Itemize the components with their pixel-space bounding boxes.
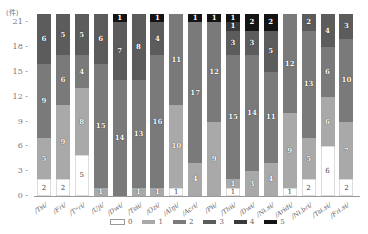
bar-segment-1: 3	[245, 171, 259, 196]
segment-value-label: 1	[97, 188, 104, 196]
bar-segment-3: 8	[132, 14, 146, 80]
segment-value-label: 1	[154, 188, 161, 196]
segment-value-label: 10	[341, 76, 353, 84]
bar-segment-3: 3	[226, 31, 240, 56]
legend-label: 1	[158, 218, 162, 226]
segment-value-label: 1	[230, 180, 237, 188]
bar-segment-1: 1	[132, 188, 146, 196]
segment-value-label: 6	[324, 68, 331, 76]
bar-segment-5: 1	[207, 14, 221, 22]
bar-segment-0: 1	[283, 188, 297, 196]
legend-item-5: 5	[264, 218, 284, 226]
bar-segment-0: 2	[302, 179, 316, 196]
bar-segment-2: 13	[132, 80, 146, 188]
bar: 4171	[187, 14, 203, 196]
segment-value-label: 2	[267, 18, 274, 26]
segment-value-label: 11	[170, 56, 182, 64]
legend-item-1: 1	[142, 218, 162, 226]
bar-segment-2: 14	[245, 55, 259, 171]
segment-value-label: 17	[189, 89, 201, 97]
segment-value-label: 4	[78, 68, 85, 76]
segment-value-label: 9	[286, 147, 293, 155]
bar: 11641	[149, 14, 165, 196]
segment-value-label: 2	[248, 18, 255, 26]
bar-segment-5: 2	[264, 14, 278, 31]
bar-segment-1: 4	[188, 163, 202, 196]
segment-value-label: 6	[324, 118, 331, 126]
bar: 9121	[206, 14, 222, 196]
bar-segment-3: 6	[94, 14, 108, 64]
segment-value-label: 5	[267, 47, 274, 55]
bar-segment-3: 5	[75, 14, 89, 55]
segment-value-label: 6	[59, 76, 66, 84]
segment-value-label: 16	[152, 118, 164, 126]
bar: 27103	[338, 14, 354, 196]
segment-value-label: 13	[133, 130, 145, 138]
segment-value-label: 2	[60, 184, 66, 192]
segment-value-label: 3	[248, 180, 255, 188]
segment-value-label: 5	[59, 31, 66, 39]
bar-segment-1: 8	[75, 88, 89, 154]
bar-segment-1: 5	[302, 138, 316, 179]
y-tick-label: 0 -	[6, 191, 28, 200]
segment-value-label: 3	[230, 39, 237, 47]
bar-segment-2: 11	[264, 72, 278, 163]
bar-segment-0: 5	[75, 155, 89, 196]
segment-value-label: 12	[284, 60, 296, 68]
bar-segment-0: 2	[339, 179, 353, 196]
segment-value-label: 2	[305, 184, 311, 192]
bar-segment-1: 7	[339, 122, 353, 180]
segment-value-label: 7	[116, 47, 123, 55]
bar-segment-3: 3	[245, 31, 259, 56]
bar-segment-1: 1	[150, 188, 164, 196]
bar-segment-2: 10	[339, 39, 353, 122]
bar-segment-4: 1	[226, 22, 240, 30]
bar: 1912	[282, 14, 298, 196]
bar: 11011	[168, 14, 184, 196]
bar-segment-2: 13	[302, 31, 316, 139]
segment-value-label: 13	[303, 80, 315, 88]
bar-segment-3: 2	[302, 14, 316, 31]
bar: 2965	[55, 14, 71, 196]
bar-segment-0: 6	[321, 146, 335, 196]
bar-segment-1: 10	[169, 105, 183, 188]
legend-label: 3	[219, 218, 223, 226]
segment-value-label: 1	[154, 14, 161, 22]
bar-segment-2: 6	[56, 55, 70, 105]
y-tick-label: 6 -	[6, 141, 28, 150]
legend-item-4: 4	[234, 218, 254, 226]
bar-segment-1: 9	[207, 122, 221, 196]
segment-value-label: 6	[324, 167, 330, 175]
x-axis-line	[34, 196, 360, 197]
segment-value-label: 9	[59, 138, 66, 146]
segment-value-label: 1	[192, 14, 199, 22]
legend-label: 2	[189, 218, 193, 226]
segment-value-label: 5	[79, 171, 85, 179]
segment-value-label: 9	[41, 97, 48, 105]
segment-value-label: 9	[211, 155, 218, 163]
segment-value-label: 2	[343, 184, 349, 192]
y-tick-label: 3 -	[6, 166, 28, 175]
bar: 2596	[36, 14, 52, 196]
y-axis-unit: (件)	[6, 7, 18, 17]
segment-value-label: 7	[343, 147, 350, 155]
segment-value-label: 1	[135, 188, 142, 196]
legend-swatch-icon	[234, 220, 247, 224]
segment-value-label: 3	[343, 22, 350, 30]
y-tick-label: 12 -	[6, 92, 28, 101]
bar-segment-1: 1	[226, 179, 240, 187]
bar: 1471	[112, 14, 128, 196]
bar-segment-3: 4	[150, 22, 164, 55]
bar-segment-3: 4	[321, 14, 335, 47]
segment-value-label: 1	[211, 14, 218, 22]
bar: 6664	[320, 14, 336, 196]
bar-segment-2: 17	[188, 22, 202, 163]
legend-item-2: 2	[173, 218, 193, 226]
bar-segment-0: 2	[37, 179, 51, 196]
segment-value-label: 8	[78, 118, 85, 126]
bar-segment-5: 1	[150, 14, 164, 22]
segment-value-label: 15	[95, 122, 107, 130]
segment-value-label: 5	[78, 31, 85, 39]
segment-value-label: 5	[41, 155, 48, 163]
y-tick-label: 9 -	[6, 117, 28, 126]
